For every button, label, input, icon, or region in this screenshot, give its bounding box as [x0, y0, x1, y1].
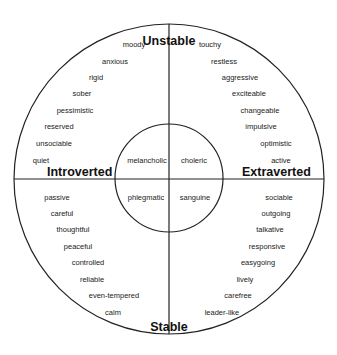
temperament-choleric: choleric: [181, 156, 207, 165]
trait-word: talkative: [256, 225, 284, 234]
temperament-sanguine: sanguine: [180, 193, 210, 202]
trait-word: even-tempered: [89, 291, 139, 300]
trait-word: reliable: [80, 275, 104, 284]
trait-word: peaceful: [64, 242, 93, 251]
axis-label-extraverted: Extraverted: [242, 165, 311, 179]
trait-word: moody: [123, 40, 146, 49]
temperament-diagram: Unstable Stable Introverted Extraverted …: [0, 0, 337, 355]
trait-word: reserved: [44, 122, 73, 131]
temperament-melancholic: melancholic: [127, 156, 167, 165]
trait-word: aggressive: [222, 73, 258, 82]
trait-word: active: [271, 156, 291, 165]
trait-word: optimistic: [260, 139, 292, 148]
trait-word: exciteable: [232, 89, 266, 98]
trait-word: passive: [44, 193, 69, 202]
trait-word: changeable: [241, 106, 280, 115]
trait-word: unsociable: [36, 139, 72, 148]
trait-word: impulsive: [245, 122, 276, 131]
trait-word: lively: [237, 275, 254, 284]
trait-word: carefree: [224, 291, 252, 300]
quadrant-stable-introverted: passive careful thoughtful peaceful cont…: [44, 193, 139, 317]
trait-word: rigid: [89, 73, 103, 82]
axis-label-introverted: Introverted: [47, 165, 112, 179]
trait-word: careful: [51, 209, 74, 218]
temperament-phlegmatic: phlegmatic: [128, 193, 165, 202]
trait-word: easygoing: [241, 258, 275, 267]
trait-word: sober: [73, 89, 92, 98]
quadrant-unstable-introverted: moody anxious rigid sober pessimistic re…: [33, 40, 146, 165]
trait-word: outgoing: [262, 209, 291, 218]
trait-word: responsive: [249, 242, 285, 251]
axis-label-unstable: Unstable: [143, 34, 196, 48]
trait-word: thoughtful: [57, 225, 90, 234]
trait-word: sociable: [265, 193, 293, 202]
trait-word: leader-like: [205, 308, 240, 317]
trait-word: quiet: [33, 156, 50, 165]
quadrant-stable-extraverted: sociable outgoing talkative responsive e…: [205, 193, 293, 317]
trait-word: pessimistic: [57, 106, 94, 115]
trait-word: restless: [211, 57, 237, 66]
trait-word: controlled: [72, 258, 105, 267]
trait-word: calm: [105, 308, 121, 317]
axis-label-stable: Stable: [150, 320, 188, 334]
trait-word: anxious: [102, 57, 128, 66]
trait-word: touchy: [199, 40, 221, 49]
